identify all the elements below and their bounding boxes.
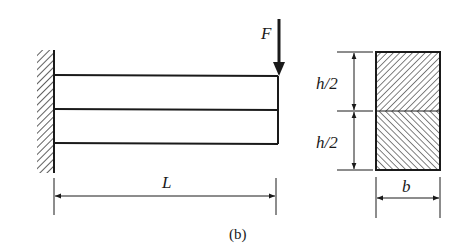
beam-top-edge	[54, 75, 278, 76]
beam-diagram: F L (b) h/2 h/2 b	[0, 0, 466, 252]
bottom-half-hatch	[376, 111, 440, 170]
beam-bottom-edge	[54, 143, 278, 144]
length-dimension: L	[54, 173, 276, 215]
figure-caption: (b)	[229, 226, 247, 243]
load-label: F	[260, 24, 272, 43]
beam	[54, 75, 278, 144]
cross-section	[376, 52, 440, 170]
fixed-wall-support	[37, 50, 54, 173]
beam-interface	[54, 109, 278, 110]
lower-height-label: h/2	[316, 133, 338, 152]
upper-height-label: h/2	[316, 74, 338, 93]
height-dimensions: h/2 h/2	[316, 52, 373, 170]
top-half-hatch	[376, 52, 440, 111]
width-dimension: b	[376, 177, 440, 218]
wall-hatch	[37, 50, 54, 173]
load-arrow: F	[260, 19, 285, 76]
arrow-down-icon	[273, 62, 285, 76]
width-label: b	[402, 177, 411, 196]
length-label: L	[161, 173, 171, 192]
